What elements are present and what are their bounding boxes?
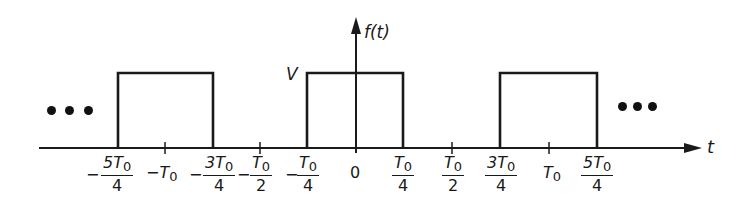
tick-label-sign: − [237,165,250,184]
tick-label-sign: − [86,165,99,184]
continuation-dot-icon [84,106,93,115]
tick-label-neg5T0over4: 5T0 4 [101,155,133,195]
tick-label-3T0over4: 3T0 4 [485,155,517,195]
tick-label-T0over2: T0 2 [442,155,464,195]
time-axis-arrowhead-icon [684,143,702,153]
tick-label-5T0over4: 5T0 4 [581,155,613,195]
continuation-dot-icon [618,102,627,111]
tick-label-sign: − [189,165,202,184]
tick-label-T0over4: T0 4 [392,155,414,195]
amplitude-axis-arrowhead-icon [351,17,361,34]
tick-label-zero: 0 [350,165,360,181]
continuation-dot-icon [65,106,74,115]
tick-label-neg3T0over4: 3T0 4 [203,155,235,195]
time-axis-label: t [707,138,714,156]
function-label: f(t) [364,24,390,41]
continuation-dot-icon [648,102,657,111]
pulse-left [118,73,213,148]
tick-label-negT0over4: T0 4 [297,155,319,195]
tick-label-T0: T0 [543,165,561,183]
pulse-right [500,73,597,148]
tick-label-negT0: −T0 [146,165,177,183]
tick-label-negT0over2: T0 2 [250,155,272,195]
amplitude-label: V [286,66,298,83]
continuation-dot-icon [47,106,56,115]
continuation-dot-icon [633,102,642,111]
